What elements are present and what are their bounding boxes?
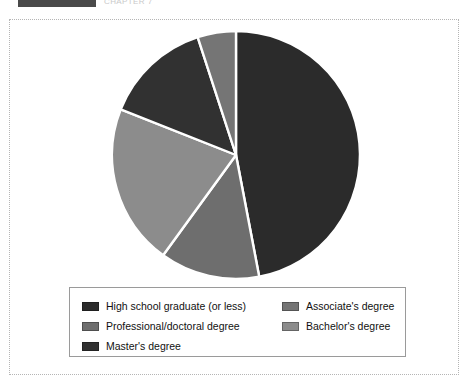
legend-item: Associate's degree: [282, 296, 395, 316]
figure-frame: High school graduate (or less)Associate'…: [9, 19, 459, 375]
legend-item-label: Bachelor's degree: [306, 320, 390, 332]
chapter-header-bar: [18, 0, 96, 7]
chart-legend: High school graduate (or less)Associate'…: [69, 287, 406, 357]
legend-item: High school graduate (or less): [82, 296, 282, 316]
legend-item-label: Master's degree: [106, 340, 181, 352]
legend-swatch-professional: [82, 322, 99, 331]
legend-item: Master's degree: [82, 336, 282, 356]
legend-item-label: Associate's degree: [306, 300, 394, 312]
legend-swatch-high-school: [82, 302, 99, 311]
pie-slice: [236, 31, 360, 277]
pie-chart-area: [10, 20, 460, 282]
pie-slice-group: [112, 31, 360, 279]
legend-item: Professional/doctoral degree: [82, 316, 282, 336]
legend-swatch-bachelors: [282, 322, 299, 331]
legend-swatch-associates: [282, 302, 299, 311]
legend-item: Bachelor's degree: [282, 316, 395, 336]
legend-grid: High school graduate (or less)Associate'…: [82, 296, 395, 356]
legend-item-label: Professional/doctoral degree: [106, 320, 240, 332]
pie-chart: [108, 27, 364, 283]
legend-swatch-masters: [82, 342, 99, 351]
legend-item-label: High school graduate (or less): [106, 300, 246, 312]
chapter-header-caption: CHAPTER 7: [104, 0, 153, 8]
